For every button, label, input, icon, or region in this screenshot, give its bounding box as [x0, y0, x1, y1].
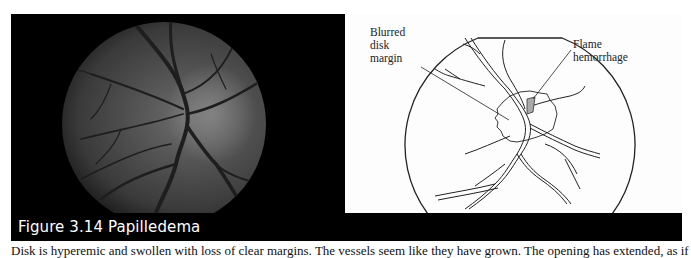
label-flame-hemorrhage: Flame hemorrhage	[573, 38, 628, 64]
figure-frame: Blurred disk margin Flame hemorrhage Fig…	[11, 14, 682, 241]
label-blurred-disk-margin: Blurred disk margin	[370, 26, 405, 65]
fundus-photograph	[11, 14, 345, 213]
papilledema-diagram: Blurred disk margin Flame hemorrhage	[345, 14, 682, 213]
body-paragraph: Disk is hyperemic and swollen with loss …	[11, 243, 691, 258]
fundus-photo-image	[11, 14, 345, 213]
figure-caption: Figure 3.14 Papilledema	[18, 218, 200, 236]
caption-strip: Figure 3.14 Papilledema	[11, 213, 682, 241]
